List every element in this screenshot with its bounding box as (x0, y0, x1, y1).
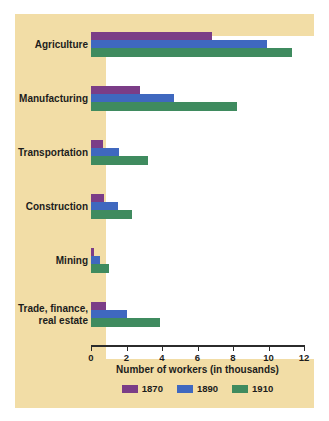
legend-label-1870: 1870 (142, 383, 163, 394)
x-axis-tick-label: 0 (88, 352, 93, 363)
bar-1910-0 (91, 48, 292, 57)
legend-item-1870[interactable]: 1870 (122, 383, 163, 394)
legend-swatch-1910 (232, 385, 248, 393)
bar-1910-1 (91, 102, 237, 111)
x-axis-line (91, 345, 304, 347)
legend-label-1890: 1890 (197, 383, 218, 394)
x-axis-tick-label: 6 (195, 352, 200, 363)
bar-1910-5 (91, 318, 160, 327)
x-axis-tick-label: 2 (124, 352, 129, 363)
chart-legend: 187018901910 (91, 383, 304, 394)
category-label-1: Manufacturing (19, 93, 88, 105)
legend-item-1910[interactable]: 1910 (232, 383, 273, 394)
x-axis-title: Number of workers (in thousands) (91, 364, 304, 375)
legend-swatch-1870 (122, 385, 138, 393)
legend-label-1910: 1910 (252, 383, 273, 394)
category-label-5: Trade, finance, real estate (18, 303, 88, 327)
category-label-3: Construction (26, 201, 88, 213)
category-label-4: Mining (56, 255, 88, 267)
bar-1910-3 (91, 210, 132, 219)
x-axis-tick-label: 8 (230, 352, 235, 363)
x-axis-tick-label: 12 (299, 352, 310, 363)
category-label-2: Transportation (18, 147, 88, 159)
x-axis-tick (304, 345, 305, 351)
bar-1910-2 (91, 156, 148, 165)
chart-figure: 024681012AgricultureManufacturingTranspo… (0, 0, 329, 421)
category-label-0: Agriculture (35, 39, 88, 51)
legend-swatch-1890 (177, 385, 193, 393)
legend-item-1890[interactable]: 1890 (177, 383, 218, 394)
bar-1910-4 (91, 264, 109, 273)
plot-area (106, 36, 326, 359)
x-axis-tick-label: 4 (159, 352, 164, 363)
x-axis-tick-label: 10 (263, 352, 274, 363)
